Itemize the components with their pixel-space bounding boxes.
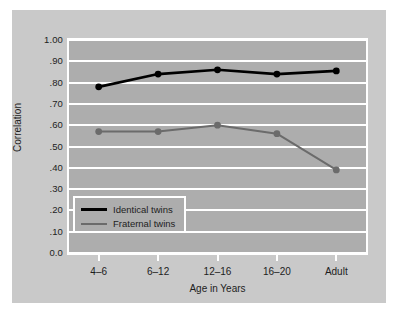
legend-item-identical-twins: Identical twins [81,202,173,217]
gridline [69,39,366,41]
chart-legend: Identical twins Fraternal twins [73,196,186,233]
gridline [69,146,366,148]
chart-figure: 0.0.10.20.30.40.50.60.70.80.901.00 Corre… [0,0,398,320]
x-axis-tick-mark [335,255,337,261]
x-axis-tick-mark [98,255,100,261]
y-axis-tick-label: .30 [17,183,63,194]
y-axis-tick-label: .20 [17,204,63,215]
legend-swatch-fraternal-twins [81,223,107,225]
x-axis-tick-mark [157,255,159,261]
y-axis-title: Correlation [12,88,23,168]
y-axis-tick-label: 1.00 [17,34,63,45]
legend-label-identical-twins: Identical twins [113,204,173,215]
y-axis-tick-label: .40 [17,162,63,173]
gridline [69,103,366,105]
y-axis-tick-label: .80 [17,77,63,88]
y-axis-tick-label: .10 [17,226,63,237]
gridline [69,188,366,190]
y-axis-tick-label: .50 [17,141,63,152]
y-axis-tick-label: .90 [17,55,63,66]
y-axis-tick-label: .60 [17,119,63,130]
x-axis-title: Age in Years [67,283,368,294]
gridline [69,252,366,254]
gridline [69,60,366,62]
gridline [69,124,366,126]
x-axis-tick-mark [217,255,219,261]
legend-item-fraternal-twins: Fraternal twins [81,216,175,231]
y-axis-tick-label: .70 [17,98,63,109]
x-axis-tick-mark [276,255,278,261]
x-axis-tick-label: Adult [301,266,371,277]
gridline [69,82,366,84]
gridline [69,167,366,169]
legend-label-fraternal-twins: Fraternal twins [113,218,175,229]
legend-swatch-identical-twins [81,208,107,211]
y-axis-tick-label: 0.0 [17,247,63,258]
